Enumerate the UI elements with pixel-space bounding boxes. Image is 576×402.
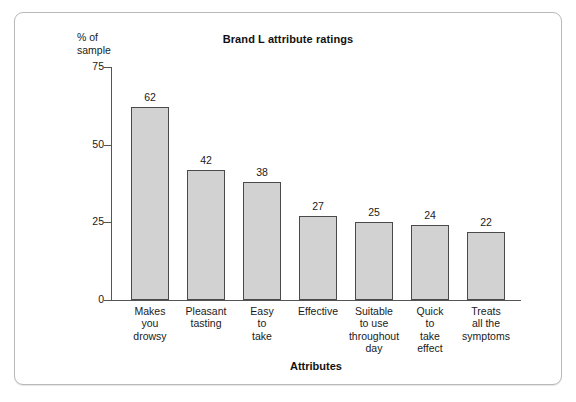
chart-frame: Brand L attribute ratings % of sample 02… [14, 12, 562, 385]
bar-rect[interactable] [243, 182, 281, 300]
bar[interactable]: 22 [467, 232, 505, 300]
bar-rect[interactable] [411, 225, 449, 300]
bar-rect[interactable] [187, 170, 225, 300]
bar-value-label: 22 [456, 217, 516, 228]
bar-rect[interactable] [355, 222, 393, 300]
bar[interactable]: 42 [187, 170, 225, 300]
bar-rect[interactable] [467, 232, 505, 300]
bar[interactable]: 62 [131, 107, 169, 300]
x-axis-title: Attributes [111, 360, 521, 372]
bar[interactable]: 25 [355, 222, 393, 300]
bar-value-label: 27 [288, 201, 348, 212]
bar-value-label: 42 [176, 155, 236, 166]
bar-rect[interactable] [299, 216, 337, 300]
bar-value-label: 24 [400, 210, 460, 221]
bar[interactable]: 27 [299, 216, 337, 300]
bar-value-label: 25 [344, 207, 404, 218]
bar-rect[interactable] [131, 107, 169, 300]
plot-area: 0255075 62423827252422 Makes you drowsyP… [15, 13, 563, 386]
x-category-label: Treats all the symptoms [452, 305, 520, 342]
bar-value-label: 62 [120, 92, 180, 103]
bar-value-label: 38 [232, 167, 292, 178]
bar[interactable]: 24 [411, 225, 449, 300]
bars-layer: 62423827252422 [15, 13, 563, 301]
bar[interactable]: 38 [243, 182, 281, 300]
